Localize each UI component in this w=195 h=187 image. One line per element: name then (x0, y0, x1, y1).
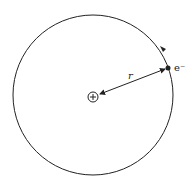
nucleus (88, 92, 98, 102)
radius-label: r (128, 70, 134, 81)
diagram-svg: r e⁻ (0, 0, 195, 187)
electron (166, 66, 171, 71)
orbit-direction-arrow-icon (160, 46, 166, 52)
electron-label: e⁻ (174, 62, 185, 73)
atom-diagram: r e⁻ (0, 0, 195, 187)
